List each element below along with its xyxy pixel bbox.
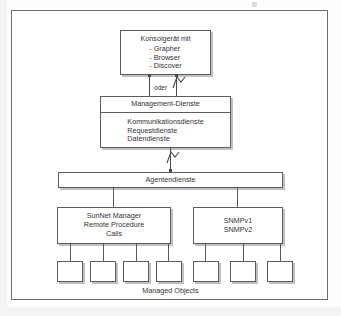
- connector-mo-left-2: [103, 244, 104, 261]
- node-snmp-protocols[interactable]: SNMPv1 SNMPv2: [193, 207, 283, 244]
- diagram-canvas: Konsolgerät mit - Grapher - Browser - Di…: [0, 0, 341, 316]
- connector-mo-right-1: [205, 244, 206, 261]
- connector-mo-right-3: [280, 244, 281, 261]
- console-feature-list: - Grapher - Browser - Discover: [149, 45, 181, 71]
- managed-object-box[interactable]: [90, 261, 116, 282]
- connector-agent-to-snmp: [237, 188, 238, 207]
- console-item-discover: - Discover: [149, 62, 181, 71]
- managed-object-box[interactable]: [57, 261, 83, 282]
- managed-object-box[interactable]: [267, 261, 293, 282]
- connector-mo-left-1: [70, 244, 71, 261]
- snmp-line-2: SNMPv2: [224, 226, 252, 235]
- node-management-services[interactable]: Management-Dienste Kommunikationsdienste…: [100, 96, 231, 148]
- managed-object-box[interactable]: [230, 261, 256, 282]
- node-agent-services[interactable]: Agentendienste: [58, 172, 283, 188]
- connector-console-right: [176, 76, 177, 96]
- agent-label: Agentendienste: [146, 176, 196, 185]
- node-console-device[interactable]: Konsolgerät mit - Grapher - Browser - Di…: [120, 30, 211, 75]
- scan-edge-bottom: [0, 307, 341, 316]
- managed-object-box[interactable]: [156, 261, 182, 282]
- connector-mo-left-3: [136, 244, 137, 261]
- management-service-data: Datendienste: [127, 135, 203, 144]
- managed-objects-label: Managed Objects: [0, 286, 341, 295]
- managed-object-box[interactable]: [123, 261, 149, 282]
- connector-mo-right-2: [243, 244, 244, 261]
- management-body: Kommunikationsdienste Requestdienste Dat…: [101, 113, 230, 147]
- scan-artifact-mark: [252, 2, 257, 7]
- connector-agent-to-sunnet: [113, 188, 114, 207]
- connector-mo-left-4: [168, 244, 169, 261]
- managed-object-box[interactable]: [193, 261, 219, 282]
- console-title: Konsolgerät mit: [141, 35, 191, 44]
- scan-edge-left: [0, 0, 7, 316]
- connector-label-oder: oder: [154, 84, 167, 91]
- node-sunnet-manager-rpc[interactable]: SunNet Manager Remote Procedure Calls: [57, 207, 171, 244]
- connector-console-left: [149, 76, 150, 96]
- sunnet-line-3: Calls: [106, 230, 122, 239]
- management-header: Management-Dienste: [101, 97, 230, 113]
